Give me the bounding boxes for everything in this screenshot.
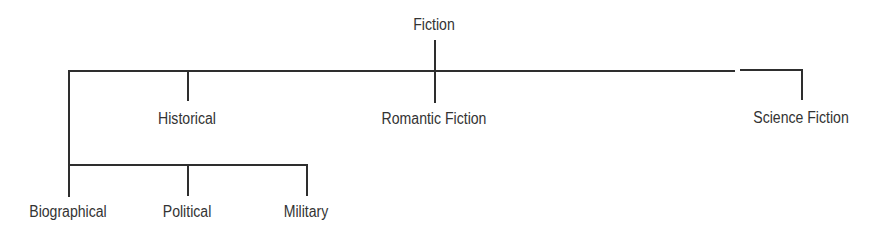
connector-science-fiction-stem <box>801 69 803 100</box>
connector-military-stem <box>306 164 308 196</box>
node-political: Political <box>163 203 212 221</box>
genre-tree-diagram: Fiction Historical Romantic Fiction Scie… <box>0 0 883 241</box>
connector-historical-stem <box>187 71 189 101</box>
connector-main-bar <box>68 70 735 72</box>
node-fiction: Fiction <box>413 16 454 34</box>
node-military: Military <box>284 203 329 221</box>
node-science-fiction: Science Fiction <box>753 109 848 127</box>
node-romantic-fiction: Romantic Fiction <box>382 110 487 128</box>
connector-political-stem <box>187 164 189 196</box>
node-biographical: Biographical <box>29 203 106 221</box>
node-historical: Historical <box>158 110 216 128</box>
connector-main-bar-right <box>740 69 802 71</box>
connector-left-vertical <box>68 70 70 197</box>
